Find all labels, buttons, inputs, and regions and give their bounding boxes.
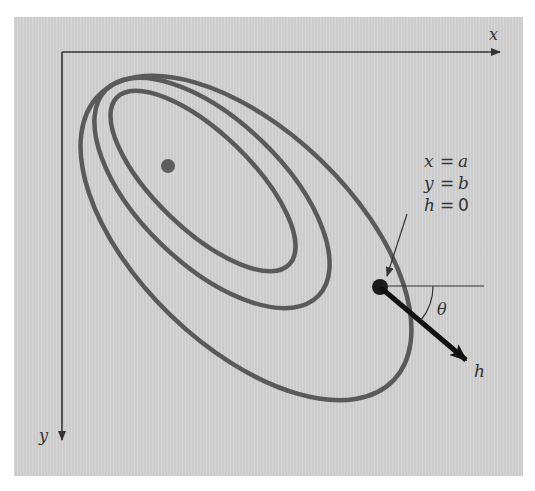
- label-eq: =: [440, 195, 454, 215]
- angle-label: θ: [437, 300, 447, 319]
- label-eq: =: [440, 173, 454, 193]
- angle-arc: [421, 286, 433, 320]
- label-val: 0: [458, 195, 469, 215]
- label-var: h: [424, 195, 435, 215]
- contour-outer: [24, 18, 469, 458]
- vector-label: h: [474, 361, 485, 381]
- optimum-point: [161, 159, 175, 173]
- point-label-block: x = a y = b h = 0: [423, 151, 469, 215]
- label-line-y: y = b: [423, 173, 469, 193]
- contour-middle: [56, 38, 369, 347]
- direction-vector: [380, 287, 466, 360]
- label-var: y: [423, 173, 434, 193]
- x-axis-label: x: [489, 25, 498, 44]
- diagram-canvas: x y h θ x = a y = b h = 0: [0, 0, 535, 491]
- label-val: a: [458, 151, 468, 171]
- label-line-x: x = a: [424, 151, 468, 171]
- label-line-h: h = 0: [424, 195, 469, 215]
- y-axis-label: y: [38, 426, 49, 445]
- label-var: x: [424, 151, 434, 171]
- label-val: b: [458, 173, 469, 193]
- contour-lines: [24, 18, 469, 458]
- label-eq: =: [440, 151, 454, 171]
